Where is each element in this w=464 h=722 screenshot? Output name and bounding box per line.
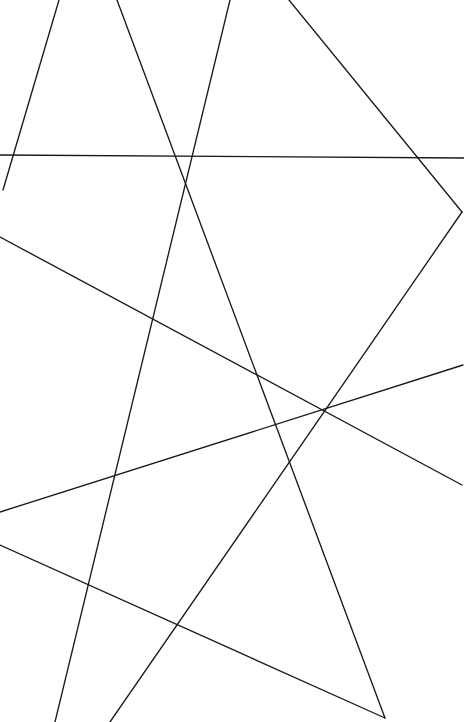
drawing-canvas bbox=[0, 0, 464, 722]
line-arrangement-figure bbox=[0, 0, 464, 722]
